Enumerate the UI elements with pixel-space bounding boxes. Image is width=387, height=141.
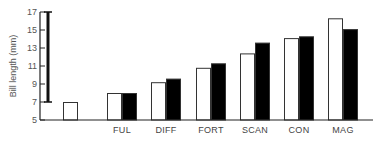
y-tick-label: 9 (32, 79, 37, 89)
bar-mag-black (344, 30, 358, 120)
x-category-label: FORT (198, 125, 224, 135)
y-axis-label: Bill length (mm) (8, 35, 18, 98)
range-bar (44, 12, 52, 102)
bill-length-chart: 57911131517 FULDIFFFORTSCANCONMAG Bill l… (0, 0, 387, 141)
bar-ful-black (123, 94, 137, 121)
bar-mag-white (329, 19, 343, 120)
bar-scan-white (241, 54, 255, 120)
y-tick-label: 15 (27, 25, 37, 35)
x-category-label: SCAN (242, 125, 268, 135)
y-tick-label: 11 (28, 61, 37, 71)
bar-con-white (285, 39, 299, 120)
y-tick-label: 17 (27, 7, 37, 17)
bar-scan-black (256, 43, 270, 120)
y-tick-label: 5 (32, 115, 37, 125)
x-axis: FULDIFFFORTSCANCONMAG (40, 120, 373, 135)
bar-fort-white (197, 68, 211, 120)
y-tick-label: 7 (32, 97, 37, 107)
x-category-label: FUL (113, 125, 131, 135)
bar-fort-black (212, 64, 226, 120)
x-category-label: CON (289, 125, 310, 135)
bar-baseline-white (64, 103, 78, 121)
y-axis: 57911131517 (27, 7, 45, 125)
bar-ful-white (108, 94, 122, 121)
bars (64, 19, 358, 120)
bar-diff-white (152, 83, 166, 120)
bar-diff-black (167, 79, 181, 120)
x-category-label: DIFF (155, 125, 176, 135)
bar-con-black (300, 37, 314, 120)
x-category-label: MAG (332, 125, 353, 135)
y-tick-label: 13 (27, 43, 37, 53)
